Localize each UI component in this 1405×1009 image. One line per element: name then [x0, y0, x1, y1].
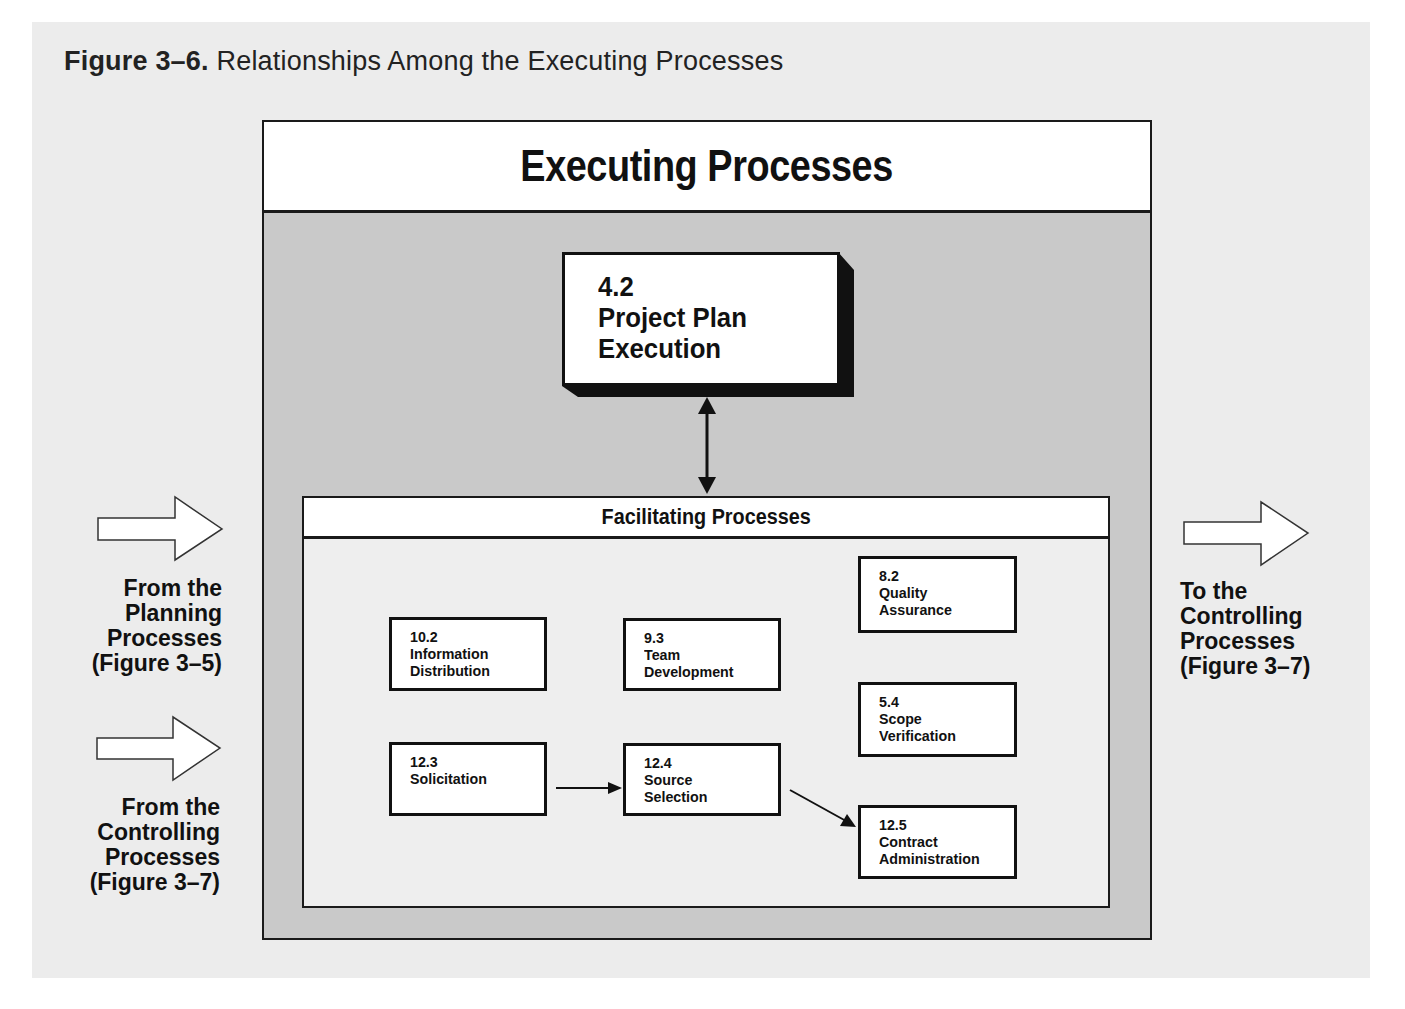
label-line: Controlling	[58, 820, 220, 845]
input-label-controlling: From the Controlling Processes (Figure 3…	[58, 795, 220, 895]
bidirectional-arrow-icon	[698, 397, 716, 494]
label-line: (Figure 3–7)	[1180, 654, 1360, 679]
label-line: (Figure 3–5)	[60, 651, 222, 676]
label-line: Processes	[1180, 629, 1360, 654]
flow-arrow-solicitation-to-source-selection	[556, 782, 622, 794]
label-line: Planning	[60, 601, 222, 626]
input-arrow-planning-icon	[98, 497, 222, 560]
output-arrow-controlling-icon	[1184, 502, 1308, 565]
label-line: (Figure 3–7)	[58, 870, 220, 895]
flow-arrow-source-selection-to-contract-administration	[790, 790, 856, 827]
label-line: From the	[60, 576, 222, 601]
output-label-controlling: To the Controlling Processes (Figure 3–7…	[1180, 579, 1360, 679]
label-line: Processes	[60, 626, 222, 651]
label-line: To the	[1180, 579, 1360, 604]
label-line: Controlling	[1180, 604, 1360, 629]
label-line: From the	[58, 795, 220, 820]
input-arrow-controlling-icon	[97, 717, 220, 780]
input-label-planning: From the Planning Processes (Figure 3–5)	[60, 576, 222, 676]
label-line: Processes	[58, 845, 220, 870]
